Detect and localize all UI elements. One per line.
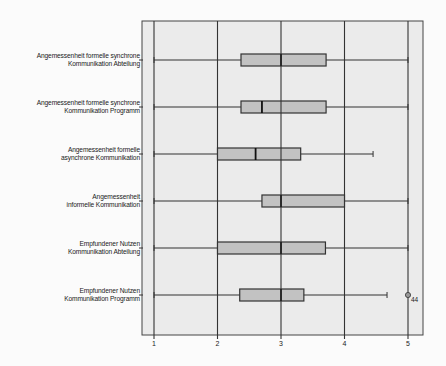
category-label-line2: Kommunikation Abteilung [0, 248, 140, 256]
category-label-line2: Kommunikation Programm [0, 295, 140, 303]
x-tick-label: 3 [275, 340, 287, 347]
category-label: Empfundener NutzenKommunikation Abteilun… [0, 240, 140, 255]
box [262, 195, 345, 207]
category-label: Angemessenheit formelle synchroneKommuni… [0, 52, 140, 67]
category-label: Angemessenheitinformelle Kommunikation [0, 193, 140, 208]
category-label-line1: Angemessenheit formelle synchrone [0, 99, 140, 107]
outlier-point [405, 292, 410, 297]
outlier-label: 44 [411, 296, 418, 303]
category-label: Angemessenheit formelle synchroneKommuni… [0, 99, 140, 114]
box [241, 54, 326, 66]
plot-area [142, 21, 423, 335]
box [218, 242, 326, 254]
x-tick-label: 2 [212, 340, 224, 347]
category-label-line1: Empfundener Nutzen [0, 240, 140, 248]
box [218, 148, 301, 160]
x-tick-label: 4 [339, 340, 351, 347]
category-label-line2: asynchrone Kommunikation [0, 154, 140, 162]
category-label-line1: Angemessenheit [0, 193, 140, 201]
box [240, 289, 304, 301]
category-label-line1: Angemessenheit formelle [0, 146, 140, 154]
category-label-line2: informelle Kommunikation [0, 201, 140, 209]
category-label-line1: Empfundener Nutzen [0, 287, 140, 295]
category-label-line1: Angemessenheit formelle synchrone [0, 52, 140, 60]
category-label-line2: Kommunikation Abteilung [0, 60, 140, 68]
category-label-line2: Kommunikation Programm [0, 107, 140, 115]
x-tick-label: 1 [148, 340, 160, 347]
x-tick-label: 5 [402, 340, 414, 347]
category-label: Empfundener NutzenKommunikation Programm [0, 287, 140, 302]
box [241, 101, 326, 113]
category-label: Angemessenheit formelleasynchrone Kommun… [0, 146, 140, 161]
